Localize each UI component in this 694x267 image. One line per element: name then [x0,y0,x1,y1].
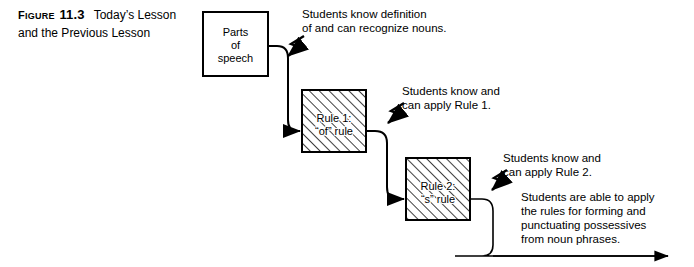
figure-caption: FIGURE 11.3 Today’s Lesson and the Previ… [18,6,198,41]
figure-caption-line-2: and the Previous Lesson [18,24,198,41]
ann4-line-3: punctuating possessives [521,218,655,232]
figure-diagram: FIGURE 11.3 Today’s Lesson and the Previ… [0,0,694,267]
figure-label-rest: IGURE [25,11,55,21]
annotation-outcome-rule-2: Students know and can apply Rule 2. [503,151,601,179]
figure-caption-line-1: FIGURE 11.3 Today’s Lesson [18,6,198,24]
box-label-parts-of-speech: Parts of speech [203,26,268,65]
box3-line-2: “s” rule [406,193,470,206]
connector-box2-to-box3 [365,131,404,199]
figure-title-line-1: Today’s Lesson [94,8,177,22]
figure-title-line-2: and the Previous Lesson [18,26,150,40]
ann2-line-2: can apply Rule 1. [402,98,500,112]
ann3-line-1: Students know and [503,151,601,165]
ann2-line-1: Students know and [402,84,500,98]
ann3-line-2: can apply Rule 2. [503,165,601,179]
box2-line-1: Rule 1: [302,112,366,125]
box1-line-2: of [203,39,268,52]
box1-line-1: Parts [203,26,268,39]
ann1-line-2: of and can recognize nouns. [302,21,447,35]
figure-number: 11.3 [59,7,84,22]
box2-line-2: “of” rule [302,125,366,138]
box-label-rule-1: Rule 1: “of” rule [302,112,366,138]
figure-label-cap: F [18,9,25,21]
ann4-line-4: from noun phrases. [521,232,655,246]
box-label-rule-2: Rule 2: “s” rule [406,180,470,206]
annotation-outcome-nouns: Students know definition of and can reco… [302,7,447,35]
box1-line-3: speech [203,52,268,65]
annotation-outcome-possessives: Students are able to apply the rules for… [521,190,655,246]
ann4-line-2: the rules for forming and [521,204,655,218]
annotation-outcome-rule-1: Students know and can apply Rule 1. [402,84,500,112]
box3-line-1: Rule 2: [406,180,470,193]
ann4-line-1: Students are able to apply [521,190,655,204]
ann1-line-1: Students know definition [302,7,447,21]
zigzag-pointer-1-icon [288,36,304,56]
connector-box1-to-box2 [268,46,300,131]
